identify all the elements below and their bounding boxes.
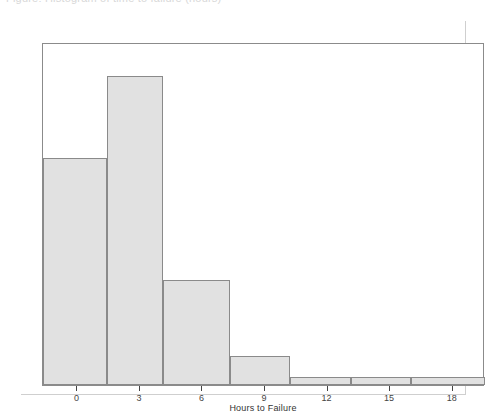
histogram-bar bbox=[351, 377, 411, 385]
histogram-bar bbox=[290, 377, 350, 385]
x-tick-label: 12 bbox=[312, 393, 342, 403]
x-tick-mark bbox=[389, 386, 390, 391]
x-tick-mark bbox=[264, 386, 265, 391]
x-tick-label: 0 bbox=[61, 393, 91, 403]
histogram-bar bbox=[163, 280, 230, 385]
figure-card: 0369121518 Hours to Failure bbox=[21, 21, 466, 395]
histogram-bars bbox=[43, 44, 483, 385]
x-tick-label: 18 bbox=[437, 393, 467, 403]
x-tick-mark bbox=[452, 386, 453, 391]
histogram-bar bbox=[43, 158, 107, 385]
x-tick-label: 9 bbox=[249, 393, 279, 403]
clipped-caption-strip: Figure: Histogram of time to failure (ho… bbox=[0, 0, 481, 7]
plot-frame bbox=[42, 43, 484, 386]
histogram-bar bbox=[107, 76, 163, 385]
x-tick-mark bbox=[76, 386, 77, 391]
histogram-bar bbox=[411, 377, 485, 385]
histogram-bar bbox=[230, 356, 290, 385]
x-tick-label: 6 bbox=[186, 393, 216, 403]
caption-text: Figure: Histogram of time to failure (ho… bbox=[6, 0, 221, 4]
x-tick-mark bbox=[201, 386, 202, 391]
x-tick-mark bbox=[327, 386, 328, 391]
x-axis-title: Hours to Failure bbox=[42, 403, 484, 412]
x-tick-label: 15 bbox=[374, 393, 404, 403]
x-tick-mark bbox=[139, 386, 140, 391]
x-tick-label: 3 bbox=[124, 393, 154, 403]
